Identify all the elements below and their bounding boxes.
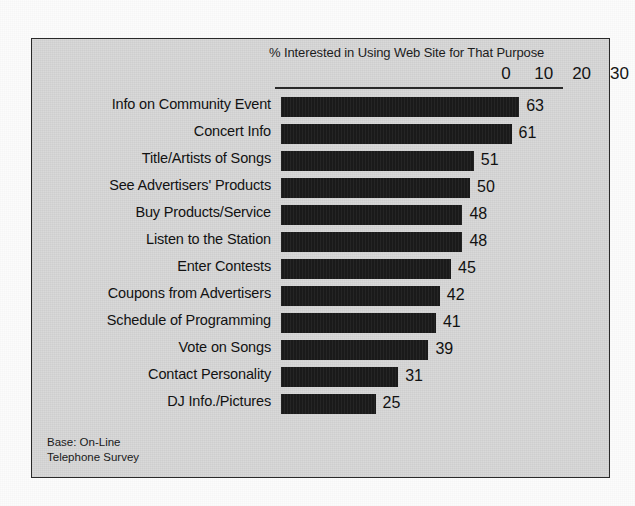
bar (281, 151, 474, 171)
bar (281, 178, 470, 198)
bar (281, 394, 376, 414)
x-axis-tick-30: 30 (610, 64, 629, 84)
bar-track: 48 (281, 205, 611, 225)
footnote-line-1: Base: On-Line (47, 435, 139, 450)
category-label: See Advertisers' Products (41, 177, 271, 193)
category-label: Schedule of Programming (41, 312, 271, 328)
bar-track: 63 (281, 97, 611, 117)
x-axis-tick-20: 20 (572, 64, 591, 84)
bar (281, 259, 451, 279)
bar-row: Title/Artists of Songs51 (32, 148, 611, 175)
category-label: Enter Contests (41, 258, 271, 274)
bar (281, 340, 428, 360)
bar (281, 313, 436, 333)
category-label: Vote on Songs (41, 339, 271, 355)
bar-row: Concert Info61 (32, 121, 611, 148)
bar-value-label: 63 (526, 97, 544, 115)
chart-axis-title: % Interested in Using Web Site for That … (269, 45, 544, 60)
bar-row: Contact Personality31 (32, 364, 611, 391)
bar-value-label: 25 (383, 394, 401, 412)
bar (281, 205, 462, 225)
category-label: Info on Community Event (41, 96, 271, 112)
x-axis-tick-10: 10 (534, 64, 553, 84)
bar-row: DJ Info./Pictures25 (32, 391, 611, 418)
bar-value-label: 31 (405, 367, 423, 385)
category-label: Coupons from Advertisers (41, 285, 271, 301)
bar (281, 97, 519, 117)
bar-track: 61 (281, 124, 611, 144)
bar-row: Schedule of Programming41 (32, 310, 611, 337)
bar-value-label: 39 (435, 340, 453, 358)
bar-row: Info on Community Event63 (32, 94, 611, 121)
category-label: Concert Info (41, 123, 271, 139)
bar-track: 41 (281, 313, 611, 333)
category-label: DJ Info./Pictures (41, 393, 271, 409)
bar-track: 45 (281, 259, 611, 279)
bar-track: 51 (281, 151, 611, 171)
bar-track: 50 (281, 178, 611, 198)
bar-row: Listen to the Station48 (32, 229, 611, 256)
bar-value-label: 45 (458, 259, 476, 277)
category-label: Contact Personality (41, 366, 271, 382)
bar (281, 367, 398, 387)
bar-row: See Advertisers' Products50 (32, 175, 611, 202)
category-label: Listen to the Station (41, 231, 271, 247)
bar-row: Enter Contests45 (32, 256, 611, 283)
bar-row: Coupons from Advertisers42 (32, 283, 611, 310)
category-label: Title/Artists of Songs (41, 150, 271, 166)
bar-track: 48 (281, 232, 611, 252)
bar-track: 25 (281, 394, 611, 414)
bar-track: 42 (281, 286, 611, 306)
x-axis-tick-0: 0 (501, 64, 510, 84)
bar-track: 39 (281, 340, 611, 360)
chart-footnote: Base: On-Line Telephone Survey (47, 435, 139, 465)
bar-row: Vote on Songs39 (32, 337, 611, 364)
x-axis-rule (275, 87, 563, 89)
bar-rows: Info on Community Event63Concert Info61T… (32, 94, 611, 418)
bar-value-label: 61 (519, 124, 537, 142)
bar-row: Buy Products/Service48 (32, 202, 611, 229)
bar-track: 31 (281, 367, 611, 387)
bar (281, 232, 462, 252)
bar-value-label: 41 (443, 313, 461, 331)
bar-value-label: 48 (469, 205, 487, 223)
bar-value-label: 48 (469, 232, 487, 250)
chart-frame: % Interested in Using Web Site for That … (31, 38, 610, 478)
bar (281, 124, 512, 144)
page-background: % Interested in Using Web Site for That … (0, 0, 635, 506)
bar-value-label: 50 (477, 178, 495, 196)
bar (281, 286, 440, 306)
x-axis-tick-labels: 010203040506070 (269, 64, 569, 86)
bar-value-label: 51 (481, 151, 499, 169)
footnote-line-2: Telephone Survey (47, 450, 139, 465)
bar-value-label: 42 (447, 286, 465, 304)
category-label: Buy Products/Service (41, 204, 271, 220)
